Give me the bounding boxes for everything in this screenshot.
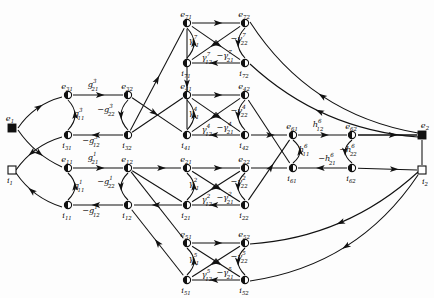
node-i31[interactable] — [64, 131, 71, 138]
gain-superscript: 4 — [227, 121, 232, 127]
node-e72[interactable] — [241, 19, 248, 26]
gain-label-7-2: −γ721 — [216, 49, 233, 63]
minus-sign: − — [339, 144, 346, 154]
node-label-e52: e52 — [238, 229, 250, 240]
gain-superscript: 2 — [227, 191, 232, 197]
node-label-i62: i62 — [346, 173, 356, 184]
node-i21[interactable] — [183, 201, 190, 208]
gain-subscript: 12 — [205, 276, 212, 282]
node-label-e21: e21 — [180, 154, 192, 165]
edge-e1-e31-arrowhead — [34, 102, 44, 112]
gain-superscript: 6 — [351, 143, 355, 149]
gain-subscript: 11 — [192, 185, 199, 191]
node-e42[interactable] — [241, 91, 248, 98]
arrow-glyph — [34, 102, 44, 112]
gain-label-7-3: −γ722 — [230, 32, 248, 46]
node-i12[interactable] — [124, 201, 131, 208]
node-i71[interactable] — [183, 59, 190, 66]
node-e31[interactable] — [64, 91, 71, 98]
gain-subscript: 22 — [240, 112, 248, 118]
node-i41[interactable] — [183, 131, 190, 138]
terminal-i2[interactable] — [418, 166, 426, 174]
node-e12[interactable] — [124, 164, 131, 171]
edge-i2-i52 — [250, 175, 418, 281]
edge-e1-e11 — [18, 130, 62, 167]
node-i62[interactable] — [348, 164, 355, 171]
gain-label-1-1: g111 — [74, 179, 85, 193]
minus-sign: − — [216, 50, 223, 60]
edge-i22-e61-arrowhead — [266, 162, 276, 172]
node-label-e32: e32 — [121, 81, 133, 92]
node-label-i32: i32 — [122, 140, 132, 151]
node-label-sub: 12 — [126, 159, 133, 165]
gain-superscript: 2 — [241, 175, 246, 181]
arrow-glyph — [314, 107, 324, 116]
gain-superscript: 2 — [206, 193, 211, 199]
node-label-i41: i41 — [181, 140, 190, 151]
node-label-sub: 31 — [66, 86, 73, 92]
node-i61[interactable] — [289, 164, 296, 171]
edge-i2-e52-arrowhead — [335, 218, 345, 227]
node-label-sub: 1 — [10, 180, 13, 186]
gain-subscript: 21 — [90, 159, 98, 165]
node-label-i11: i11 — [62, 210, 71, 221]
node-label-sub: 11 — [66, 159, 73, 165]
node-label-e11: e11 — [61, 154, 73, 165]
node-i51[interactable] — [183, 276, 190, 283]
gain-superscript: 1 — [109, 175, 113, 181]
gain-label-1-0: g121 — [88, 151, 99, 165]
node-i32[interactable] — [124, 131, 131, 138]
node-e52[interactable] — [241, 239, 248, 246]
node-label-e61: e61 — [286, 121, 298, 132]
node-i72[interactable] — [241, 59, 248, 66]
gain-subscript: 12 — [205, 59, 212, 65]
node-label-sub: 32 — [126, 86, 133, 92]
gain-subscript: 21 — [328, 160, 336, 166]
node-label-e31: e31 — [61, 81, 73, 92]
node-i52[interactable] — [241, 276, 248, 283]
gain-label-4-2: −γ421 — [216, 121, 233, 135]
gain-subscript: 12 — [205, 131, 212, 137]
node-e32[interactable] — [124, 91, 131, 98]
node-e51[interactable] — [183, 239, 190, 246]
node-label-i42: i42 — [239, 140, 249, 151]
node-label-i12: i12 — [122, 210, 132, 221]
node-e62[interactable] — [348, 131, 355, 138]
gain-superscript: 5 — [194, 252, 198, 258]
gain-subscript: 22 — [240, 258, 248, 264]
node-e41[interactable] — [183, 91, 190, 98]
node-label-i52: i52 — [239, 285, 249, 296]
node-label-e71: e71 — [180, 9, 192, 20]
node-e21[interactable] — [183, 164, 190, 171]
gain-subscript: 11 — [77, 187, 84, 193]
gain-superscript: 4 — [206, 123, 211, 129]
node-label-sub: 71 — [184, 73, 191, 79]
edge-i11-i1 — [16, 173, 62, 207]
node-label-e1: e1 — [6, 113, 14, 124]
gain-label-3-1: g311 — [74, 107, 85, 121]
node-e22[interactable] — [241, 164, 248, 171]
node-label-e51: e51 — [180, 229, 192, 240]
gain-subscript: 22 — [240, 183, 248, 189]
gain-superscript: 7 — [228, 49, 232, 55]
gain-label-3-2: −g322 — [97, 103, 115, 117]
gain-label-3-0: g321 — [88, 78, 99, 92]
node-i22[interactable] — [241, 201, 248, 208]
node-square-open — [418, 166, 426, 174]
terminal-i1[interactable] — [8, 166, 16, 174]
node-e61[interactable] — [289, 131, 296, 138]
node-e71[interactable] — [183, 19, 190, 26]
edge-e2-e72 — [250, 22, 418, 133]
node-label-sub: 21 — [183, 215, 191, 221]
node-label-sub: 12 — [125, 215, 132, 221]
node-i11[interactable] — [64, 201, 71, 208]
edge-e2-i72 — [250, 64, 418, 137]
node-label-i22: i22 — [239, 210, 249, 221]
node-label-sub: 42 — [241, 145, 249, 151]
terminal-e1[interactable] — [8, 124, 16, 132]
node-e11[interactable] — [64, 164, 71, 171]
gain-superscript: 2 — [193, 177, 198, 183]
node-i42[interactable] — [241, 131, 248, 138]
terminal-e2[interactable] — [418, 131, 426, 139]
node-label-sub: 1 — [11, 118, 14, 124]
